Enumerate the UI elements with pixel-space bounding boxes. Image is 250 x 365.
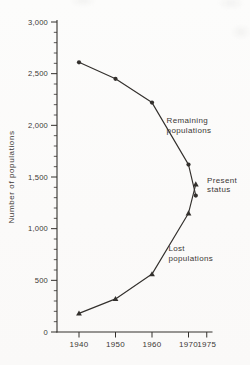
- remaining-populations-marker: [113, 77, 117, 81]
- present-status-label-line: status: [207, 185, 230, 194]
- lost-populations-label-line: Lost: [168, 244, 185, 253]
- y-tick-label: 1,500: [28, 173, 48, 182]
- x-tick-label: 1960: [143, 340, 162, 349]
- lost-populations-marker: [113, 296, 119, 301]
- x-tick-label: 1950: [106, 340, 125, 349]
- y-axis-title: Number of populations: [7, 130, 16, 223]
- y-tick-label: 0: [44, 328, 48, 337]
- lost-populations-label: Lostpopulations: [168, 244, 213, 263]
- remaining-populations-label-line: Remaining: [167, 116, 208, 125]
- scan-artifact: [231, 24, 250, 40]
- x-tick-label: 1940: [70, 340, 89, 349]
- y-tick-label: 2,000: [28, 121, 48, 130]
- remaining-populations-marker: [186, 163, 190, 167]
- population-chart-figure: 05001,0001,5002,0002,5003,00019401950196…: [0, 0, 250, 365]
- remaining-populations-label: Remainingpopulations: [167, 116, 212, 135]
- remaining-populations-label-line: populations: [167, 126, 212, 135]
- present-status-label: Presentstatus: [207, 176, 237, 195]
- y-tick-label: 2,500: [28, 69, 48, 78]
- scanned-figure-page: 05001,0001,5002,0002,5003,00019401950196…: [0, 0, 250, 365]
- x-tick-label: 1970: [179, 340, 198, 349]
- x-tick-label: 1975: [197, 340, 216, 349]
- remaining-populations-marker: [150, 101, 154, 105]
- y-tick-label: 3,000: [28, 18, 48, 27]
- lost-populations-marker: [186, 210, 192, 215]
- population-line-chart: 05001,0001,5002,0002,5003,00019401950196…: [0, 0, 250, 365]
- lost-populations-label-line: populations: [168, 254, 213, 263]
- remaining-populations-marker: [194, 194, 198, 198]
- y-tick-label: 500: [35, 276, 48, 285]
- present-status-label-line: Present: [207, 176, 237, 185]
- lost-populations-marker: [193, 181, 199, 186]
- lost-populations-marker: [149, 271, 155, 276]
- y-tick-label: 1,000: [28, 224, 48, 233]
- remaining-populations-marker: [77, 60, 81, 64]
